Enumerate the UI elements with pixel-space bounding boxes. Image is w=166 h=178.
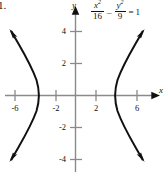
hyperbola-plot [0, 0, 166, 178]
y-tick-label--2: -2 [49, 122, 66, 132]
right-branch-upper-arrowhead [137, 29, 145, 38]
y-tick-label--4: -4 [49, 154, 66, 164]
left-branch-upper-arrowhead [9, 29, 17, 38]
hyperbola-figure: 1. x2 16 – y2 9 = 1 [0, 0, 166, 178]
x-tick-label-2: 2 [89, 103, 103, 113]
y-tick-label-4: 4 [53, 26, 66, 36]
x-tick-label--2: -2 [48, 103, 64, 113]
x-tick-label--6: -6 [7, 103, 23, 113]
y-tick-label-2: 2 [53, 58, 66, 68]
x-tick-label-6: 6 [130, 103, 144, 113]
left-branch-lower-arrowhead [9, 153, 17, 162]
x-axis-label: x [159, 85, 163, 95]
y-axis-label: y [72, 0, 76, 10]
right-branch-lower-arrowhead [137, 153, 145, 162]
axis-lines [5, 14, 152, 172]
